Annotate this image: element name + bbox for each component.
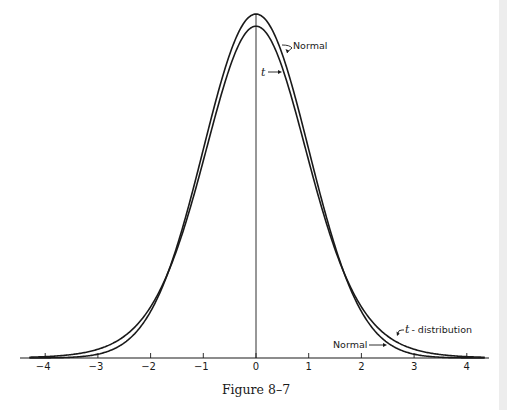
x-tick-label: 1 — [306, 361, 312, 372]
label-t-top: t — [261, 66, 266, 79]
annotation-normal-tail: Normal — [333, 339, 387, 350]
x-tick-label: −4 — [36, 361, 51, 372]
annotation-t-top: t — [261, 66, 282, 79]
annotation-t-tail: t- distribution — [397, 323, 473, 336]
figure-caption: Figure 8–7 — [222, 382, 290, 397]
annotation-normal-top: Normal — [282, 40, 327, 53]
x-axis-ticks: −4−3−2−101234 — [36, 353, 470, 372]
x-tick-label: 0 — [253, 361, 259, 372]
label-normal-top: Normal — [293, 40, 327, 51]
page-edge — [499, 0, 507, 410]
normal-curve — [29, 14, 484, 358]
x-tick-label: 4 — [464, 361, 470, 372]
chart-figure: −4−3−2−101234 Normal t t- distribution N… — [0, 0, 507, 410]
x-tick-label: −3 — [89, 361, 104, 372]
x-tick-label: −2 — [141, 361, 156, 372]
label-normal-tail: Normal — [333, 339, 367, 350]
x-tick-label: 2 — [358, 361, 364, 372]
x-tick-label: 3 — [411, 361, 417, 372]
label-t-distribution: t- distribution — [405, 323, 472, 336]
t-distribution-curve — [29, 26, 484, 357]
x-tick-label: −1 — [194, 361, 209, 372]
